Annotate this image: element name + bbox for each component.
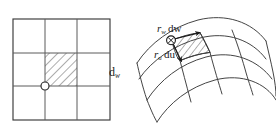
r-u-du-label-differential: du	[164, 48, 175, 60]
highlighted-parameter-cell	[45, 53, 77, 86]
surface-point-marker	[167, 36, 176, 45]
r-w-dw-label: rw dw	[157, 23, 181, 35]
r-u-du-label: ru du	[154, 49, 175, 61]
r-w-dw-label-differential: dw	[168, 22, 181, 34]
d-w-label: dw	[109, 66, 120, 79]
d-w-label-subscript: w	[115, 71, 120, 80]
r-u-du-label-subscript: u	[158, 54, 161, 61]
parameter-vertex-marker	[41, 82, 49, 90]
figure-canvas	[0, 0, 276, 131]
r-w-dw-label-subscript: w	[161, 28, 166, 35]
